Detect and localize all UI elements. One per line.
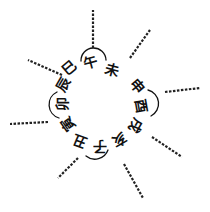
arcs-and-annotations <box>0 0 210 212</box>
annotation-upper-left <box>28 60 62 75</box>
annotation-upper-right <box>130 30 150 58</box>
annotation-lower-right <box>152 137 182 157</box>
annotation-lower-left <box>58 158 78 178</box>
branch-you: 酉 <box>132 97 151 116</box>
branch-zi: 子 <box>92 139 108 155</box>
branch-mao: 卯 <box>54 96 70 112</box>
annotation-bottom <box>124 164 143 198</box>
annotation-left <box>10 122 48 124</box>
earthly-branches-diagram: 巳 午 未 申 酉 戌 亥 子 丑 寅 卯 辰 <box>0 0 210 212</box>
annotation-right <box>165 88 200 92</box>
